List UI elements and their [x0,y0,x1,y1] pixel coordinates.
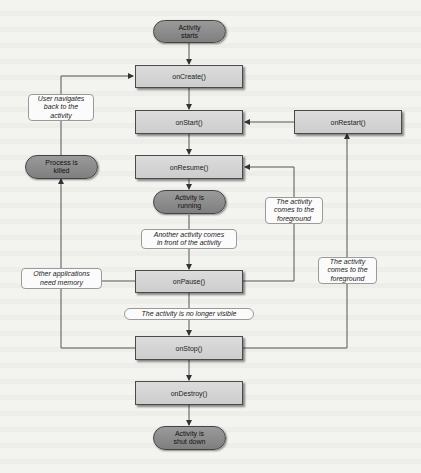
callback-onstart: onStart() [135,110,243,134]
transition-another-activity-front: Another activity comes in front of the a… [141,229,237,249]
transition-foreground-from-pause: The activity comes to the foreground [265,197,323,224]
callback-label: onPause() [173,278,205,285]
activity-lifecycle-diagram: Activity starts onCreate() onStart() onR… [0,0,421,473]
state-label: Activity is running [175,194,204,210]
callback-onpause: onPause() [135,270,243,293]
state-process-killed: Process is killed [25,155,98,179]
callback-label: onResume() [170,164,209,171]
state-activity-starts: Activity starts [153,20,226,43]
transition-user-navigates-back: User navigates back to the activity [28,94,94,121]
callback-label: onDestroy() [171,390,208,397]
state-label: Activity is shut down [174,430,206,446]
state-activity-running: Activity is running [153,190,226,214]
state-label: Process is killed [45,159,77,175]
callback-onstop: onStop() [135,336,243,360]
callback-label: onCreate() [172,73,205,80]
state-label: Activity starts [178,24,200,40]
callback-label: onStop() [176,345,203,352]
callback-onrestart: onRestart() [294,110,402,134]
transition-no-longer-visible: The activity is no longer visible [124,308,254,320]
callback-label: onRestart() [330,119,365,126]
callback-ondestroy: onDestroy() [135,381,243,405]
callback-onresume: onResume() [135,155,243,179]
callback-oncreate: onCreate() [135,65,243,88]
callback-label: onStart() [175,119,202,126]
transition-foreground-from-stop: The activity comes to the foreground [318,257,377,284]
state-activity-shut-down: Activity is shut down [153,426,226,450]
transition-other-apps-need-memory: Other applications need memory [21,268,102,289]
